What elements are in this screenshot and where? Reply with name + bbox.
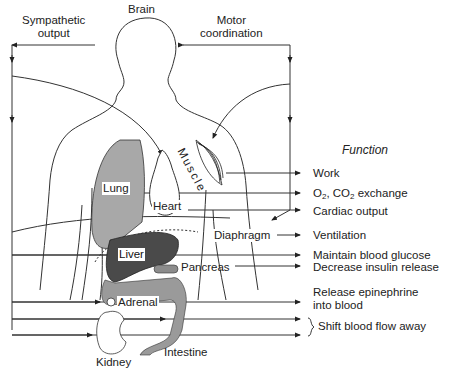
lung-label: Lung bbox=[102, 182, 130, 195]
function-work: Work bbox=[313, 167, 340, 180]
function-maintain-glucose: Maintain blood glucose bbox=[313, 249, 431, 262]
adrenal-label: Adrenal bbox=[117, 296, 159, 309]
function-ventilation: Ventilation bbox=[313, 229, 366, 242]
intestine-label: Intestine bbox=[164, 346, 207, 359]
adrenal-shape bbox=[107, 298, 115, 306]
function-decrease-insulin: Decrease insulin release bbox=[313, 261, 439, 274]
motor-coordination-label: Motor coordination bbox=[200, 14, 263, 39]
function-heading: Function bbox=[342, 144, 388, 157]
liver-label: Liver bbox=[118, 248, 145, 261]
kidney-shape bbox=[97, 311, 126, 354]
pancreas-label: Pancreas bbox=[181, 261, 230, 274]
left-inner-arm bbox=[70, 205, 82, 300]
head bbox=[116, 18, 176, 100]
function-shift-blood-flow: Shift blood flow away bbox=[318, 320, 426, 333]
pancreas-shape bbox=[154, 265, 178, 273]
brain-label: Brain bbox=[128, 3, 155, 16]
right-torso bbox=[198, 190, 206, 300]
diaphragm-label: Diaphragm bbox=[213, 229, 271, 242]
heart-label: Heart bbox=[152, 200, 182, 213]
body-outline bbox=[113, 18, 178, 75]
function-gas-exchange: O2, CO2 exchange bbox=[313, 187, 408, 202]
sympathetic-diagram: Brain Sympathetic output Motor coordinat… bbox=[0, 0, 460, 376]
function-release-epinephrine: Release epinephrine into blood bbox=[313, 286, 419, 312]
sympathetic-output-label: Sympathetic output bbox=[22, 14, 85, 39]
kidney-label: Kidney bbox=[96, 356, 131, 369]
function-cardiac-output: Cardiac output bbox=[313, 205, 388, 218]
